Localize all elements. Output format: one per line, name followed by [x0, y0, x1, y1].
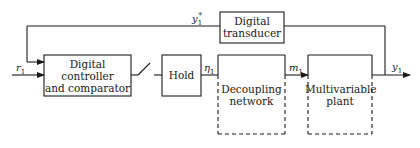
- hold-label: Hold: [162, 69, 201, 81]
- input-subscript: 1: [21, 68, 25, 76]
- manipulated-signal-label: m1: [289, 63, 303, 74]
- decoupling-label-line-2: network: [218, 95, 285, 107]
- output-signal-label: y1: [392, 62, 402, 73]
- decoupling-label: Decoupling network: [218, 83, 285, 107]
- feedback-signal-label: y1*: [192, 14, 206, 25]
- controller-label-line-1: Digital: [44, 58, 131, 70]
- plant-label-line-2: plant: [305, 95, 375, 107]
- output-subscript: 1: [398, 67, 402, 75]
- hold-label-line-1: Hold: [162, 69, 201, 81]
- feedback-symbol: y: [192, 13, 198, 24]
- plant-label: Multivariable plant: [305, 83, 375, 107]
- hold-output-signal-label: η1: [204, 63, 214, 74]
- sampler-switch: [131, 63, 162, 75]
- controller-label: Digital controller and comparator: [44, 58, 131, 94]
- input-signal-label: r1: [16, 63, 25, 74]
- controller-label-line-3: and comparator: [44, 82, 131, 94]
- transducer-label-line-2: transducer: [220, 27, 284, 39]
- output-symbol: y: [392, 61, 398, 72]
- manipulated-subscript: 1: [298, 68, 302, 76]
- decoupling-label-line-1: Decoupling: [218, 83, 285, 95]
- controller-label-line-2: controller: [44, 70, 131, 82]
- plant-label-line-1: Multivariable: [305, 83, 375, 95]
- feedback-subscript: 1: [198, 19, 202, 27]
- transducer-label-line-1: Digital: [220, 15, 284, 27]
- hold-output-subscript: 1: [210, 68, 214, 76]
- transducer-label: Digital transducer: [220, 15, 284, 39]
- feedback-superscript: *: [198, 11, 202, 20]
